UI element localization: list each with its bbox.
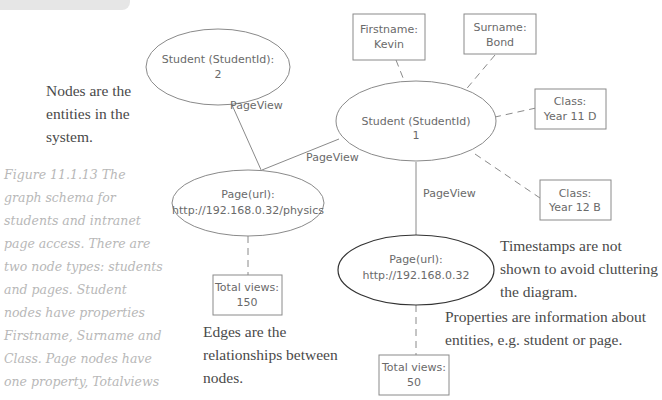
property-total-views-physics: Total views: 150 [213, 275, 282, 315]
svg-text:http://192.168.0.32/physics: http://192.168.0.32/physics [172, 204, 324, 217]
note-edges: Edges are the relationships between node… [203, 320, 353, 389]
svg-text:Year 12 B: Year 12 B [548, 201, 601, 214]
svg-text:Bond: Bond [486, 36, 514, 49]
property-firstname: Firstname: Kevin [353, 14, 425, 60]
svg-text:Year 11 D: Year 11 D [543, 110, 597, 123]
svg-text:1: 1 [413, 129, 420, 142]
note-nodes: Nodes are the entities in the system. [46, 79, 176, 148]
svg-text:Page(url):: Page(url): [389, 253, 442, 266]
link-surname [463, 55, 495, 93]
property-surname: Surname: Bond [464, 14, 536, 54]
svg-text:2: 2 [215, 68, 222, 81]
svg-text:Class:: Class: [554, 95, 587, 108]
property-class-2: Class: Year 12 B [540, 180, 611, 220]
svg-text:50: 50 [407, 376, 421, 389]
note-properties: Properties are information about entitie… [445, 305, 660, 351]
node-page-root: Page(url): http://192.168.0.32 [338, 235, 494, 305]
node-page-physics: Page(url): http://192.168.0.32/physics [172, 170, 324, 236]
svg-text:Firstname:: Firstname: [360, 23, 418, 36]
figure-caption: Figure 11.1.13 The graph schema for stud… [4, 163, 164, 393]
note-timestamps: Timestamps are not shown to avoid clutte… [500, 234, 660, 303]
svg-text:http://192.168.0.32: http://192.168.0.32 [362, 269, 469, 282]
property-total-views-root: Total views: 50 [379, 355, 449, 395]
svg-text:Kevin: Kevin [374, 38, 404, 51]
svg-text:150: 150 [237, 296, 258, 309]
svg-text:Page(url):: Page(url): [221, 188, 274, 201]
link-class2 [475, 154, 540, 198]
svg-text:Total views:: Total views: [381, 361, 446, 374]
property-class-1: Class: Year 11 D [535, 89, 606, 129]
node-student-1: Student (StudentId) 1 [336, 81, 496, 161]
svg-text:Student (StudentId):: Student (StudentId): [162, 53, 275, 66]
edge-label-student2-physics: PageView [230, 99, 283, 112]
svg-text:Total views:: Total views: [214, 281, 279, 294]
edge-label-student1-physics: PageView [306, 151, 359, 164]
edge-label-student1-root: PageView [423, 187, 476, 200]
link-class1 [495, 108, 536, 117]
svg-text:Student (StudentId): Student (StudentId) [362, 115, 471, 128]
svg-text:Surname:: Surname: [473, 21, 526, 34]
svg-text:Class:: Class: [559, 187, 592, 200]
